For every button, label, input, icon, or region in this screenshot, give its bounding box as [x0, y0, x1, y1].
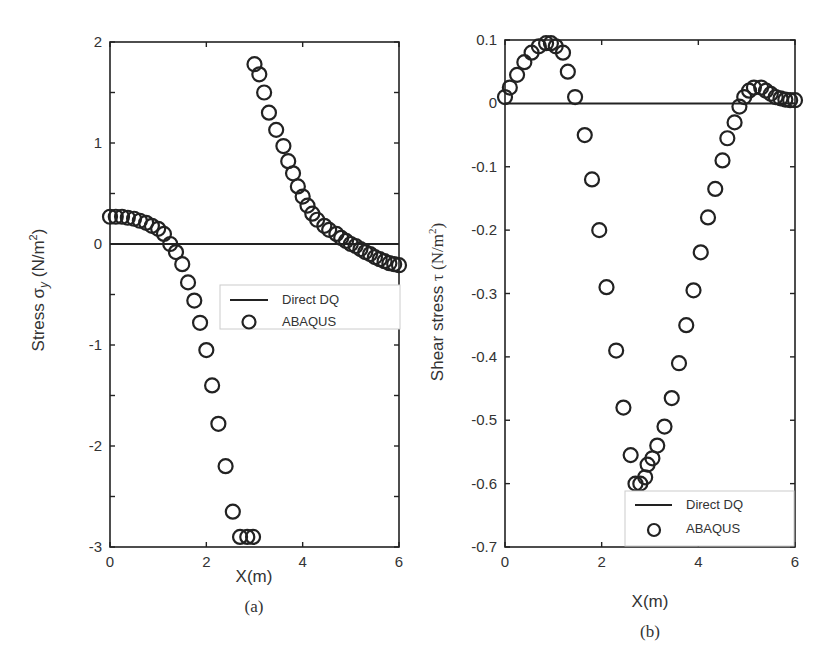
abaqus-point — [175, 257, 189, 271]
abaqus-point — [219, 459, 233, 473]
x-axis-title-a: X(m) — [236, 567, 273, 586]
abaqus-point — [694, 245, 708, 259]
abaqus-point — [269, 123, 283, 137]
x-tick-label: 6 — [791, 553, 799, 570]
abaqus-point — [679, 318, 693, 332]
abaqus-point — [578, 128, 592, 142]
abaqus-point — [720, 131, 734, 145]
abaqus-point — [650, 439, 664, 453]
abaqus-point — [609, 344, 623, 358]
y-tick-label: -0.1 — [471, 158, 497, 175]
x-tick-label: 2 — [597, 553, 605, 570]
abaqus-point — [181, 275, 195, 289]
panel-caption-a: (a) — [245, 597, 264, 616]
y-tick-label: -0.6 — [471, 475, 497, 492]
legend-label-abaqus-a: ABAQUS — [282, 314, 337, 329]
abaqus-point — [658, 420, 672, 434]
y-tick-label: 2 — [94, 33, 102, 50]
y-tick-label: -3 — [89, 538, 102, 555]
abaqus-point — [226, 505, 240, 519]
x-axis-title-b: X(m) — [632, 592, 669, 611]
x-tick-label: 2 — [202, 553, 210, 570]
abaqus-point — [257, 86, 271, 100]
y-tick-label: -0.7 — [471, 538, 497, 555]
y-tick-label: 1 — [94, 134, 102, 151]
abaqus-point — [624, 448, 638, 462]
y-tick-label: 0 — [489, 94, 497, 111]
y-tick-label: -1 — [89, 336, 102, 353]
chart-panel-b: -0.7-0.6-0.5-0.4-0.3-0.2-0.100.10246 X(m… — [426, 31, 802, 641]
y-tick-label: -0.2 — [471, 221, 497, 238]
abaqus-point — [616, 401, 630, 415]
abaqus-point — [592, 223, 606, 237]
abaqus-point — [687, 283, 701, 297]
x-tick-label: 0 — [501, 553, 509, 570]
x-tick-label: 4 — [298, 553, 306, 570]
y-tick-label: -2 — [89, 437, 102, 454]
legend-label-direct-dq-a: Direct DQ — [282, 292, 339, 307]
y-axis-title-a: Stress σy (N/m2) — [27, 229, 51, 352]
abaqus-point — [708, 182, 722, 196]
y-axis-title-b: Shear stress τ (N/m2) — [426, 223, 447, 381]
abaqus-point — [701, 210, 715, 224]
abaqus-point — [568, 90, 582, 104]
legend-b: Direct DQ ABAQUS — [625, 491, 794, 546]
abaqus-point — [205, 378, 219, 392]
abaqus-point — [600, 280, 614, 294]
abaqus-point — [517, 55, 531, 69]
panel-caption-b: (b) — [640, 622, 660, 641]
y-tick-label: -0.3 — [471, 285, 497, 302]
abaqus-point — [585, 172, 599, 186]
figure: -3-2-10120246 X(m) (a) Stress σy (N/m2) … — [0, 0, 823, 672]
y-tick-label: 0.1 — [476, 31, 497, 48]
abaqus-point — [187, 294, 201, 308]
y-tick-label: 0 — [94, 235, 102, 252]
abaqus-point — [286, 166, 300, 180]
abaqus-point — [672, 356, 686, 370]
abaqus-point — [716, 153, 730, 167]
abaqus-point — [728, 115, 742, 129]
abaqus-point — [510, 68, 524, 82]
legend-label-abaqus-b: ABAQUS — [686, 521, 741, 536]
abaqus-point — [262, 106, 276, 120]
y-tick-label: -0.5 — [471, 411, 497, 428]
chart-panel-a: -3-2-10120246 X(m) (a) Stress σy (N/m2) … — [27, 33, 406, 616]
x-tick-label: 6 — [395, 553, 403, 570]
abaqus-point — [561, 65, 575, 79]
x-tick-label: 4 — [694, 553, 702, 570]
y-tick-label: -0.4 — [471, 348, 497, 365]
legend-label-direct-dq-b: Direct DQ — [686, 497, 743, 512]
abaqus-point — [193, 316, 207, 330]
abaqus-point — [276, 139, 290, 153]
abaqus-point — [665, 391, 679, 405]
abaqus-point — [199, 343, 213, 357]
scatter-points-b — [498, 36, 802, 490]
legend-a: Direct DQ ABAQUS — [220, 285, 400, 329]
abaqus-point — [211, 417, 225, 431]
x-tick-label: 0 — [106, 553, 114, 570]
